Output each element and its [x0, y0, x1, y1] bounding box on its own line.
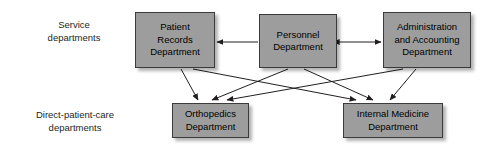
connector-patient-records-to-internal-medicine — [193, 69, 356, 100]
connector-personnel-to-internal-medicine — [304, 69, 373, 100]
department-relationship-diagram: Service departments Direct-patient-care … — [0, 0, 495, 151]
node-internal-medicine-department: Internal Medicine Department — [343, 103, 443, 138]
row-label-service-departments: Service departments — [8, 18, 140, 44]
connector-administration-to-orthopedics — [227, 69, 403, 100]
connector-patient-records-to-orthopedics — [181, 69, 198, 100]
connector-administration-to-internal-medicine — [390, 69, 416, 100]
node-personnel-department: Personnel Department — [259, 14, 337, 68]
node-orthopedics-department: Orthopedics Department — [172, 103, 249, 138]
connector-personnel-to-orthopedics — [212, 69, 288, 100]
row-label-direct-patient-care-departments: Direct-patient-care departments — [4, 108, 146, 134]
node-administration-and-accounting-department: Administration and Accounting Department — [383, 12, 471, 68]
node-patient-records-department: Patient Records Department — [135, 12, 215, 68]
